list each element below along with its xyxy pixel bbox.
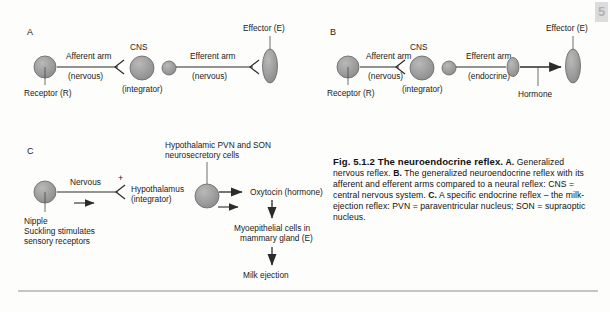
caption-c-marker: C. — [428, 190, 437, 200]
cns-sub-a: (integrator) — [122, 84, 163, 94]
caption-b-marker: B. — [393, 168, 402, 178]
effector-origin-cell-a — [162, 61, 176, 75]
afferent-arm-sub-b: (nervous) — [368, 71, 403, 81]
effector-cell-b — [566, 49, 581, 83]
panel-c: C Hypothalamic PVN and SON neurosecretor… — [24, 140, 323, 280]
hypothalamus-label: Hypothalamus — [131, 184, 184, 194]
panel-b: B Receptor (R) Afferent arm (nervous) CN… — [327, 23, 588, 99]
oxytocin-label: Oxytocin (hormone) — [250, 187, 323, 197]
nipple-sub1: Suckling stimulates — [24, 226, 95, 236]
receptor-label-b: Receptor (R) — [327, 88, 375, 98]
afferent-arm-label-b: Afferent arm — [366, 51, 412, 61]
nervous-label: Nervous — [70, 177, 101, 187]
panel-c-letter: C — [27, 146, 34, 156]
panel-a-letter: A — [27, 27, 33, 37]
caption-a-marker: A. — [506, 157, 515, 167]
hypothalamus-cell — [195, 184, 219, 208]
cns-cell-a — [130, 56, 154, 80]
effector-origin-cell-b — [442, 61, 456, 75]
pvn-son-label-line2: neurosecretory cells — [165, 150, 239, 160]
afferent-arm-sub-a: (nervous) — [68, 71, 103, 81]
nipple-sub2: sensory receptors — [24, 236, 90, 246]
efferent-arm-label-a: Efferent arm — [190, 51, 236, 61]
afferent-arm-label-a: Afferent arm — [66, 51, 112, 61]
receptor-label-a: Receptor (R) — [24, 88, 72, 98]
hormone-label-b: Hormone — [518, 89, 553, 99]
myoepithelial-line2: mammary gland (E) — [240, 233, 313, 243]
pvn-son-label-line1: Hypothalamic PVN and SON — [165, 140, 271, 150]
effector-label-b: Effector (E) — [546, 23, 588, 33]
nipple-label: Nipple — [24, 216, 48, 226]
efferent-arm-label-b: Efferent arm — [466, 51, 512, 61]
panel-a: A Receptor (R) Afferent arm (nervous) CN… — [24, 23, 285, 98]
caption-figure-number: Fig. 5.1.2 — [333, 156, 375, 167]
hypothalamus-sub: (integrator) — [131, 194, 172, 204]
cns-sub-b: (integrator) — [402, 84, 443, 94]
efferent-arm-sub-a: (nervous) — [192, 71, 227, 81]
effector-label-a: Effector (E) — [243, 23, 285, 33]
cns-cell-b — [410, 56, 434, 80]
plus-sign-c: + — [118, 173, 123, 183]
cns-label-b: CNS — [410, 42, 428, 52]
caption-figure-title: The neuroendocrine reflex. — [378, 156, 503, 167]
effector-cell-a — [263, 49, 278, 83]
milk-ejection-label: Milk ejection — [243, 270, 289, 280]
panel-b-letter: B — [330, 27, 336, 37]
cns-label-a: CNS — [130, 42, 148, 52]
endocrine-gland-cell-b — [507, 58, 519, 77]
figure-caption: Fig. 5.1.2 The neuroendocrine reflex. A.… — [333, 156, 591, 224]
efferent-arm-sub-b: (endocrine) — [468, 71, 510, 81]
myoepithelial-line1: Myoepithelial cells in — [234, 223, 310, 233]
